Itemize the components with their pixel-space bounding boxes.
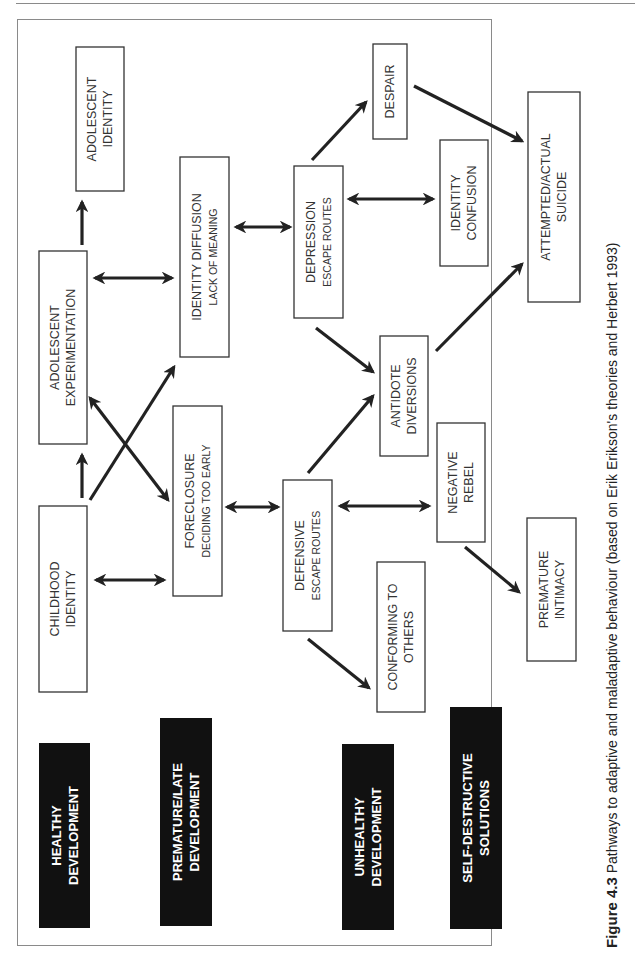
- box-label: SUICIDE: [555, 172, 569, 223]
- box-label: NEGATIVE: [446, 451, 460, 513]
- category-label: UNHEALTHY: [352, 797, 367, 877]
- category-premature-late-development: PREMATURE/LATE DEVELOPMENT: [160, 718, 212, 926]
- arrow-defensive-to-conforming: [308, 639, 369, 688]
- figure-caption: Figure 4.3 Pathways to adaptive and mala…: [603, 243, 620, 948]
- box-identity-confusion: IDENTITY CONFUSION: [440, 140, 488, 266]
- box-foreclosure: FORECLOSURE DECIDING TOO EARLY: [173, 406, 222, 596]
- pathways-diagram: ADOLESCENT IDENTITY IDENTITY DIFFUSION L…: [0, 0, 635, 968]
- category-unhealthy-development: UNHEALTHY DEVELOPMENT: [342, 744, 394, 930]
- arrow-depression-to-antidote: [316, 328, 373, 372]
- caption-text: Pathways to adaptive and maladaptive beh…: [604, 243, 620, 878]
- box-negative-rebel: NEGATIVE REBEL: [437, 423, 485, 542]
- figure-number: Figure 4.3: [603, 877, 620, 948]
- box-antidote-diversions: ANTIDOTE DIVERSIONS: [380, 336, 428, 456]
- box-label: ADOLESCENT: [48, 305, 62, 390]
- arrow-rebel-to-intimacy: [465, 547, 519, 592]
- box-label: OTHERS: [402, 611, 416, 663]
- box-label: IDENTITY: [449, 174, 463, 232]
- category-label: PREMATURE/LATE: [170, 763, 185, 881]
- box-label: IDENTITY: [64, 570, 78, 628]
- box-label: ANTIDOTE: [389, 364, 403, 427]
- box-label: IDENTITY: [101, 90, 115, 148]
- box-label: ADOLESCENT: [85, 76, 99, 161]
- box-label: EXPERIMENTATION: [64, 289, 78, 407]
- box-label: CHILDHOOD: [48, 561, 62, 636]
- box-defensive: DEFENSIVE ESCAPE ROUTES: [283, 480, 332, 631]
- box-sublabel: LACK OF MEANING: [207, 209, 219, 306]
- box-despair: DESPAIR: [373, 44, 407, 139]
- box-label: FORECLOSURE: [183, 453, 197, 548]
- box-label: DEFENSIVE: [293, 520, 307, 591]
- category-label: DEVELOPMENT: [66, 786, 81, 885]
- box-label: DIVERSIONS: [405, 357, 419, 434]
- box-label: INTIMACY: [553, 559, 567, 619]
- arrow-childhood-to-diffusion: [90, 367, 174, 500]
- box-sublabel: ESCAPE ROUTES: [310, 511, 322, 600]
- arrow-despair-to-suicide: [414, 86, 522, 141]
- box-label: CONFORMING TO: [386, 583, 400, 690]
- box-label: REBEL: [462, 462, 476, 503]
- box-conforming-to-others: CONFORMING TO OTHERS: [377, 562, 425, 712]
- box-sublabel: ESCAPE ROUTES: [321, 197, 333, 286]
- arrow-depression-to-despair: [312, 102, 366, 160]
- svg-text:Figure 4.3 Pathways to adaptiv: Figure 4.3 Pathways to adaptive and mala…: [603, 243, 620, 948]
- box-depression: DEPRESSION ESCAPE ROUTES: [294, 166, 343, 318]
- category-label: HEALTHY: [49, 805, 64, 866]
- box-label: ATTEMPTED/ACTUAL: [539, 133, 553, 261]
- box-childhood-identity: CHILDHOOD IDENTITY: [39, 506, 87, 692]
- box-attempted-suicide: ATTEMPTED/ACTUAL SUICIDE: [528, 92, 580, 302]
- arrow-antidote-to-suicide: [436, 264, 522, 351]
- category-label: SELF-DESTRUCTIVE: [460, 753, 475, 883]
- double-arrow-experimentation-foreclosure: [90, 398, 168, 500]
- box-adolescent-identity: ADOLESCENT IDENTITY: [76, 47, 124, 191]
- category-label: DEVELOPMENT: [369, 787, 384, 886]
- category-label: SOLUTIONS: [477, 780, 492, 856]
- category-healthy-development: HEALTHY DEVELOPMENT: [39, 743, 90, 928]
- arrow-defensive-to-antidote: [308, 396, 373, 473]
- box-sublabel: DECIDING TOO EARLY: [200, 444, 212, 557]
- box-label: PREMATURE: [537, 551, 551, 629]
- category-self-destructive-solutions: SELF-DESTRUCTIVE SOLUTIONS: [450, 707, 502, 929]
- category-label: DEVELOPMENT: [187, 772, 202, 871]
- box-adolescent-experimentation: ADOLESCENT EXPERIMENTATION: [39, 251, 87, 444]
- box-label: DEPRESSION: [304, 201, 318, 283]
- box-label: DESPAIR: [383, 65, 397, 119]
- box-premature-intimacy: PREMATURE INTIMACY: [527, 518, 576, 661]
- box-label: CONFUSION: [465, 166, 479, 241]
- box-identity-diffusion: IDENTITY DIFFUSION LACK OF MEANING: [180, 157, 229, 357]
- box-label: IDENTITY DIFFUSION: [190, 193, 204, 321]
